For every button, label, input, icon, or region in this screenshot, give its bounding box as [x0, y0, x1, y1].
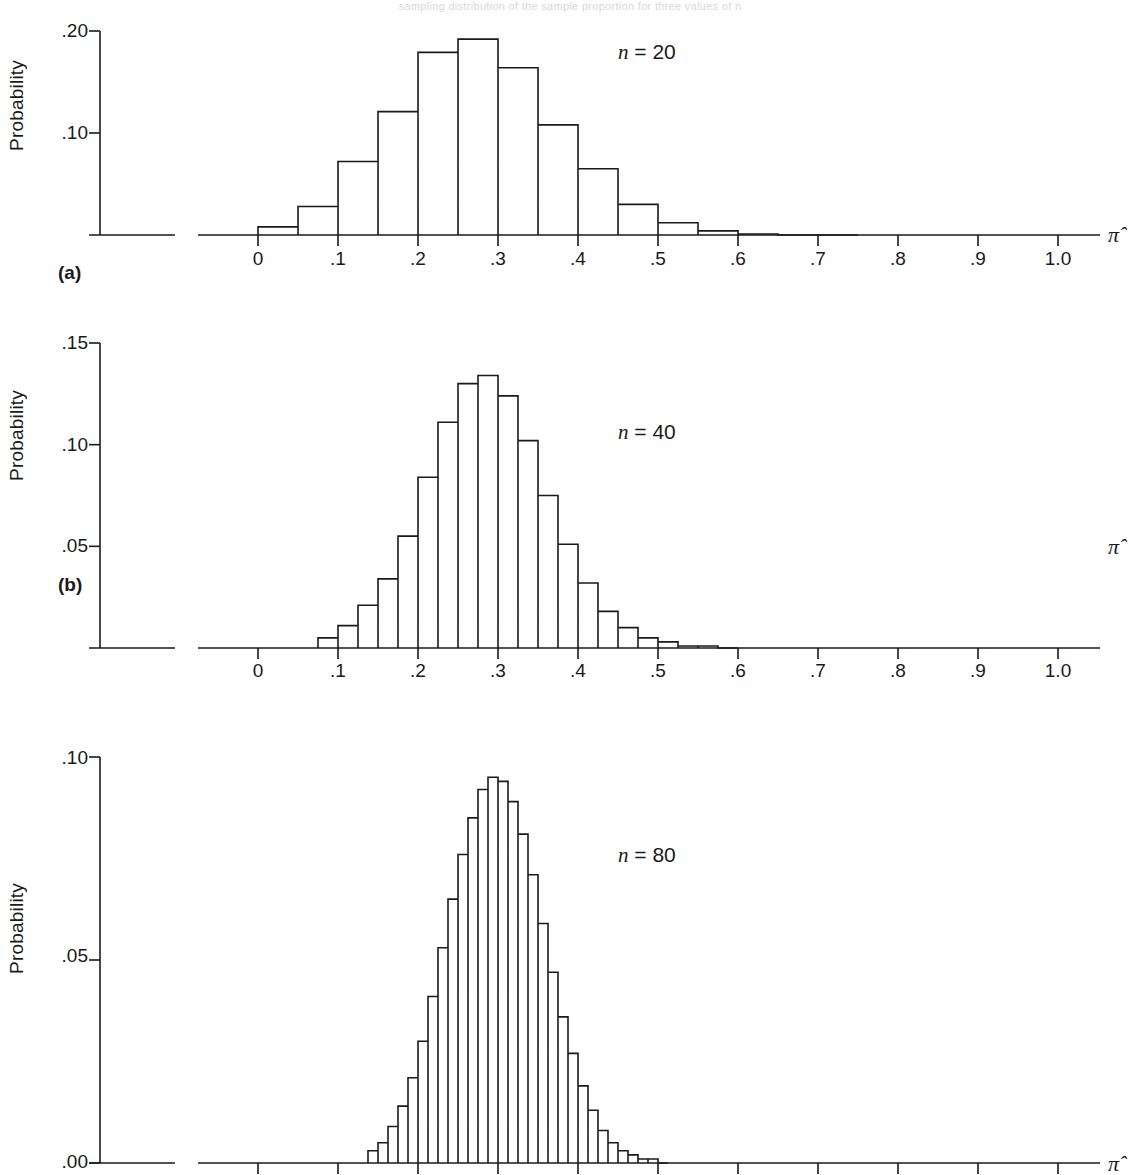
- panel-a-xtick-0: 0: [218, 248, 298, 270]
- panel-b-xtick-10: 1.0: [1018, 660, 1098, 682]
- panel-b-xtick-7: .7: [778, 660, 858, 682]
- panel-b-xtick-2: .2: [378, 660, 458, 682]
- panel-a-xtick-7: .7: [778, 248, 858, 270]
- panel-b-xtick-9: .9: [938, 660, 1018, 682]
- panel-a-xtick-8: .8: [858, 248, 938, 270]
- panel-b-xtick-8: .8: [858, 660, 938, 682]
- panel-a-xtick-9: .9: [938, 248, 1018, 270]
- panel-a-xtick-4: .4: [538, 248, 618, 270]
- panel-b-xtick-0: 0: [218, 660, 298, 682]
- panel-c: Probability .10 .05 .00 n = 80 π̂: [0, 723, 1140, 1175]
- panel-b: Probability .15 .10 .05 (b) n = 40 π̂ 0.…: [0, 312, 1140, 612]
- panel-a: Probability .20 .10 (a) n = 20 π̂ 0.1.2.…: [0, 0, 1140, 300]
- panel-a-xtick-6: .6: [698, 248, 778, 270]
- svg-b: [0, 312, 1140, 612]
- panel-a-xtick-3: .3: [458, 248, 538, 270]
- panel-a-xtick-1: .1: [298, 248, 378, 270]
- panel-b-xtick-4: .4: [538, 660, 618, 682]
- panel-b-xtick-3: .3: [458, 660, 538, 682]
- panel-b-xtick-1: .1: [298, 660, 378, 682]
- panel-a-xtick-5: .5: [618, 248, 698, 270]
- panel-b-xtick-6: .6: [698, 660, 778, 682]
- svg-c: [0, 723, 1140, 1175]
- panel-b-xtick-5: .5: [618, 660, 698, 682]
- panel-a-xtick-2: .2: [378, 248, 458, 270]
- panel-a-xtick-10: 1.0: [1018, 248, 1098, 270]
